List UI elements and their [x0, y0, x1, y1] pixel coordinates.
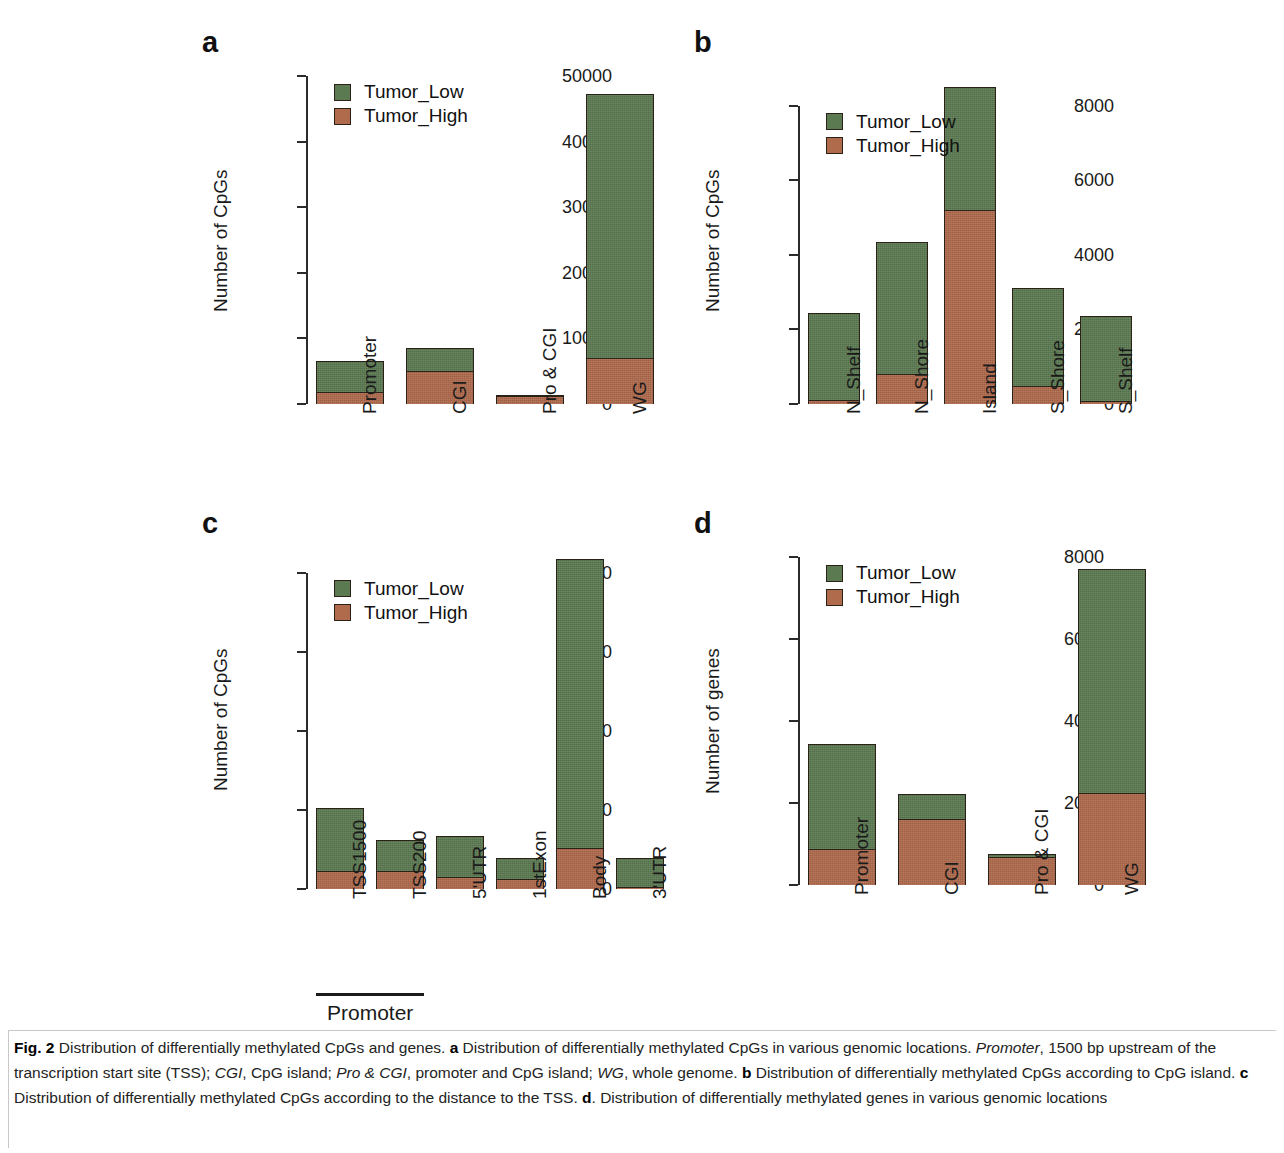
caption-fragment-3: Promoter	[976, 1039, 1040, 1056]
y-tick-b-1	[789, 328, 798, 330]
x-tick-label-a-3: WG	[629, 381, 651, 414]
y-axis-line-a	[306, 76, 308, 404]
y-axis-label-a: Number of CpGs	[210, 169, 232, 312]
legend-swatch-icon	[826, 589, 843, 606]
legend-item-tumor-high[interactable]: Tumor_High	[826, 587, 960, 607]
y-tick-a-2	[297, 272, 306, 274]
x-tick-label-c-0: TSS1500	[349, 820, 371, 899]
promoter-bracket-label: Promoter	[327, 1001, 413, 1025]
y-tick-b-2	[789, 254, 798, 256]
figure-2-root: a Number of CpGs010000200003000040000500…	[0, 0, 1284, 1153]
legend-swatch-icon	[334, 108, 351, 125]
caption-fragment-5: CGI	[215, 1064, 243, 1081]
y-tick-c-3	[297, 651, 306, 653]
legend-label: Tumor_High	[856, 135, 960, 157]
legend-item-tumor-low[interactable]: Tumor_Low	[826, 112, 960, 132]
x-tick-label-c-5: 3'UTR	[649, 846, 671, 899]
x-tick-label-c-2: 5'UTR	[469, 846, 491, 899]
legend-d: Tumor_LowTumor_High	[826, 563, 960, 611]
panel-c-letter: c	[202, 509, 218, 538]
y-tick-a-4	[297, 141, 306, 143]
x-tick-label-a-2: Pro & CGI	[539, 327, 561, 414]
figure-label: Fig. 2	[14, 1039, 54, 1056]
legend-item-tumor-low[interactable]: Tumor_Low	[826, 563, 960, 583]
legend-item-tumor-low[interactable]: Tumor_Low	[334, 579, 468, 599]
caption-fragment-9: WG	[597, 1064, 624, 1081]
caption-fragment-10: , whole genome.	[624, 1064, 742, 1081]
bar-segment-tumor-low[interactable]	[899, 795, 965, 819]
caption-frame-edge	[8, 1030, 9, 1148]
legend-swatch-icon	[826, 113, 843, 130]
x-tick-label-b-4: S_Shelf	[1115, 347, 1137, 414]
panel-b: b Number of CpGs02000400060008000N_Shelf…	[680, 24, 1160, 494]
y-tick-a-5	[297, 75, 306, 77]
legend-swatch-icon	[334, 580, 351, 597]
promoter-bracket-line	[316, 993, 424, 996]
caption-fragment-11: b	[742, 1064, 751, 1081]
x-tick-label-d-2: Pro & CGI	[1031, 808, 1053, 895]
x-tick-label-b-3: S_Shore	[1047, 340, 1069, 414]
caption-fragment-12: Distribution of differentially methylate…	[751, 1064, 1239, 1081]
stacked-bar[interactable]	[556, 559, 604, 889]
x-tick-label-d-1: CGI	[941, 861, 963, 895]
y-tick-d-0	[789, 884, 798, 886]
figure-caption: Fig. 2 Distribution of differentially me…	[14, 1035, 1272, 1110]
bar-slot-d-3	[1078, 557, 1146, 885]
legend-c: Tumor_LowTumor_High	[334, 579, 468, 627]
legend-item-tumor-low[interactable]: Tumor_Low	[334, 82, 468, 102]
stacked-bar[interactable]	[1078, 569, 1146, 885]
legend-swatch-icon	[334, 604, 351, 621]
x-tick-label-c-3: 1stExon	[529, 830, 551, 899]
legend-item-tumor-high[interactable]: Tumor_High	[334, 106, 468, 126]
y-tick-d-2	[789, 720, 798, 722]
legend-b: Tumor_LowTumor_High	[826, 112, 960, 160]
x-tick-label-c-1: TSS200	[409, 830, 431, 899]
caption-divider	[8, 1030, 1276, 1031]
y-tick-c-1	[297, 809, 306, 811]
x-tick-label-c-4: Body	[589, 856, 611, 899]
panel-d-letter: d	[694, 509, 712, 538]
x-tick-label-a-1: CGI	[449, 380, 471, 414]
x-tick-label-d-0: Promoter	[851, 817, 873, 895]
legend-item-tumor-high[interactable]: Tumor_High	[826, 136, 960, 156]
y-axis-label-c: Number of CpGs	[210, 648, 232, 791]
bar-segment-tumor-low[interactable]	[407, 349, 473, 371]
legend-label: Tumor_High	[364, 105, 468, 127]
caption-fragment-14: Distribution of differentially methylate…	[14, 1089, 582, 1106]
figure-caption-body: Distribution of differentially methylate…	[14, 1039, 1248, 1106]
y-axis-label-b: Number of CpGs	[702, 169, 724, 312]
panel-b-letter: b	[694, 28, 712, 57]
caption-fragment-7: Pro & CGI	[336, 1064, 407, 1081]
bar-slot-a-3	[586, 76, 654, 404]
plot-area-b: Number of CpGs02000400060008000N_ShelfN_…	[798, 76, 1128, 404]
y-tick-b-4	[789, 105, 798, 107]
bar-segment-tumor-low[interactable]	[587, 95, 653, 357]
stacked-bar[interactable]	[586, 94, 654, 404]
bar-segment-tumor-low[interactable]	[557, 560, 603, 848]
legend-a: Tumor_LowTumor_High	[334, 82, 468, 130]
y-tick-a-1	[297, 337, 306, 339]
legend-label: Tumor_High	[856, 586, 960, 608]
x-tick-label-b-0: N_Shelf	[843, 346, 865, 414]
y-tick-b-0	[789, 403, 798, 405]
y-tick-d-1	[789, 802, 798, 804]
legend-item-tumor-high[interactable]: Tumor_High	[334, 603, 468, 623]
panel-a: a Number of CpGs010000200003000040000500…	[188, 24, 658, 494]
legend-label: Tumor_Low	[856, 111, 956, 133]
panel-c: c Number of CpGs0400080001200016000TSS15…	[188, 505, 658, 1025]
legend-label: Tumor_High	[364, 602, 468, 624]
plot-area-d: Number of genes02000400060008000Promoter…	[798, 557, 1118, 885]
y-tick-c-2	[297, 730, 306, 732]
y-axis-line-d	[798, 557, 800, 885]
legend-label: Tumor_Low	[364, 81, 464, 103]
caption-fragment-2: Distribution of differentially methylate…	[458, 1039, 976, 1056]
caption-fragment-6: , CpG island;	[242, 1064, 336, 1081]
y-tick-a-0	[297, 403, 306, 405]
y-tick-c-0	[297, 888, 306, 890]
plot-area-a: Number of CpGs01000020000300004000050000…	[306, 76, 626, 404]
y-tick-a-3	[297, 206, 306, 208]
x-tick-label-a-0: Promoter	[359, 336, 381, 414]
x-tick-label-b-2: Island	[979, 363, 1001, 414]
bar-segment-tumor-low[interactable]	[1079, 570, 1145, 793]
y-tick-c-4	[297, 572, 306, 574]
